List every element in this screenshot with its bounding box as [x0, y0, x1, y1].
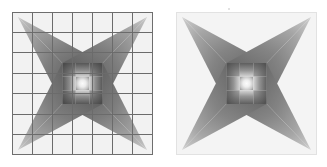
ungridded-star-panel — [176, 12, 317, 155]
center-cell-0-0 — [62, 63, 76, 77]
gridded-star-panel — [12, 12, 153, 155]
center-cell-2-0 — [62, 90, 76, 104]
center-cell-1-2 — [89, 77, 102, 91]
center-cell-2-2 — [89, 90, 102, 104]
gridded-star-graphic — [12, 12, 153, 155]
center-cell-1-0 — [62, 77, 76, 91]
center-cell-0-2 — [89, 63, 102, 77]
center-block — [62, 63, 102, 104]
center-cell-2-1 — [76, 90, 90, 104]
center-block — [226, 63, 266, 104]
center-cell-0-2 — [253, 63, 266, 77]
center-cell-1-0 — [226, 77, 240, 91]
center-cell-1-2 — [253, 77, 266, 91]
center-cell-1-1 — [240, 77, 254, 91]
ungridded-star-graphic — [176, 12, 317, 155]
center-cell-0-1 — [76, 63, 90, 77]
figure-root — [0, 0, 327, 167]
center-cell-2-0 — [226, 90, 240, 104]
center-cell-2-1 — [240, 90, 254, 104]
center-cell-2-2 — [253, 90, 266, 104]
stray-speck-mark — [228, 8, 230, 10]
center-cell-0-1 — [240, 63, 254, 77]
center-cell-1-1 — [76, 77, 90, 91]
center-cell-0-0 — [226, 63, 240, 77]
